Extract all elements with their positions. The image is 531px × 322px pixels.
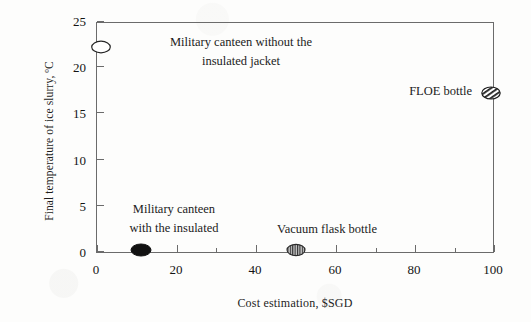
x-tick-major [177, 245, 178, 252]
annotation-line: Military canteen without the [126, 33, 356, 52]
annotation-line: FLOE bottle [388, 82, 472, 101]
x-tick-label-40: 40 [235, 262, 275, 278]
x-tick-major [336, 245, 337, 252]
annotation-military-canteen-without-jacket: Military canteen without the insulated j… [126, 33, 356, 71]
y-tick-major [97, 21, 104, 22]
annotation-vacuum-flask-bottle: Vacuum flask bottle [258, 220, 396, 239]
annotation-line: Vacuum flask bottle [258, 220, 396, 239]
y-axis-title: Final temperature of ice slurry, ºC [43, 16, 55, 266]
x-tick-label-80: 80 [394, 262, 434, 278]
chart-figure: Final temperature of ice slurry, ºC Cost… [0, 0, 531, 322]
x-axis-title: Cost estimation, $SGD [96, 296, 494, 311]
x-tick-major [256, 245, 257, 252]
y-tick-major [97, 251, 104, 252]
y-tick-major [97, 66, 104, 67]
x-tick-minor [455, 248, 456, 252]
annotation-floe-bottle: FLOE bottle [388, 82, 472, 101]
x-tick-label-60: 60 [315, 262, 355, 278]
annotation-line: Military canteen [100, 200, 248, 219]
annotation-military-canteen-with-insulated: Military canteen with the insulated [100, 200, 248, 238]
y-tick-label-0: 0 [52, 245, 86, 261]
y-tick-major [97, 112, 104, 113]
annotation-line: insulated jacket [126, 52, 356, 71]
data-point-floe-bottle[interactable] [480, 85, 502, 105]
y-tick-label-25: 25 [52, 14, 86, 30]
y-tick-label-10: 10 [52, 153, 86, 169]
y-tick-label-20: 20 [52, 60, 86, 76]
annotation-line: with the insulated [100, 219, 248, 238]
data-point-military-canteen-without-jacket[interactable] [90, 39, 112, 58]
y-tick-major [97, 159, 104, 160]
x-tick-major [494, 245, 495, 252]
x-tick-minor [216, 248, 217, 252]
y-tick-label-15: 15 [52, 106, 86, 122]
x-tick-label-100: 100 [473, 262, 513, 278]
x-tick-minor [376, 248, 377, 252]
y-tick-label-5: 5 [52, 199, 86, 215]
data-point-vacuum-flask-bottle[interactable] [285, 243, 307, 262]
x-tick-major [415, 245, 416, 252]
x-tick-label-20: 20 [156, 262, 196, 278]
data-point-military-canteen-with-insulated[interactable] [129, 242, 153, 262]
x-tick-label-0: 0 [76, 262, 116, 278]
